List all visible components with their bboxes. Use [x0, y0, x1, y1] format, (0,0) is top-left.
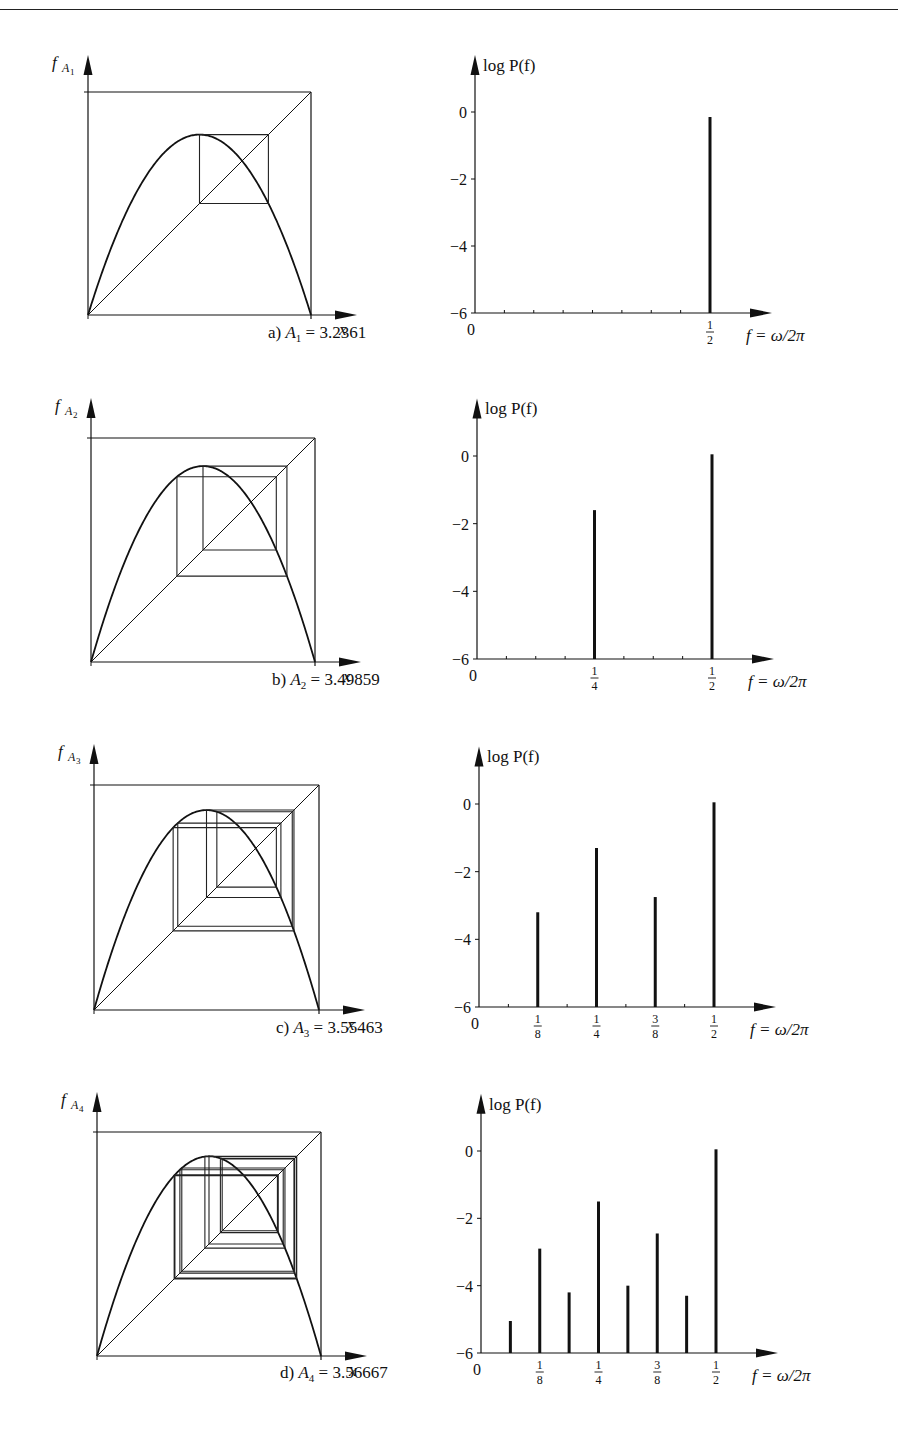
panel-caption-d: d) A4 = 3.56667 [280, 1363, 388, 1384]
panel-caption-a: a) A1 = 3.2361 [268, 323, 366, 344]
spectrum-x-label: f = ω/2π [748, 672, 807, 691]
spectrum-x-label: f = ω/2π [750, 1020, 809, 1039]
x-origin-label: 0 [471, 1015, 479, 1032]
fraction-numerator: 1 [596, 1358, 602, 1372]
panel-b: fA2x0−2−4−601412log P(f)f = ω/2π [55, 396, 807, 693]
axis-arrow-up-icon [471, 55, 480, 75]
spectrum-y-label: log P(f) [485, 399, 537, 418]
cobweb-plot-a: fA1x [52, 53, 357, 339]
panel-d: fA4x0−2−4−6018143812log P(f)f = ω/2π [61, 1090, 811, 1387]
fraction-numerator: 3 [654, 1358, 660, 1372]
fraction-denominator: 2 [713, 1373, 719, 1387]
fraction-denominator: 4 [592, 679, 598, 693]
fraction-denominator: 2 [709, 679, 715, 693]
axis-arrow-right-icon [345, 1352, 367, 1361]
fraction-denominator: 8 [654, 1373, 660, 1387]
fraction-numerator: 3 [652, 1012, 658, 1026]
y-tick-label: −4 [454, 931, 471, 948]
caption-prefix: d) [280, 1363, 298, 1382]
axis-arrow-up-icon [93, 1092, 102, 1112]
y-tick-label: −4 [450, 238, 467, 255]
fraction-numerator: 1 [535, 1012, 541, 1026]
fraction-denominator: 8 [652, 1027, 658, 1041]
caption-symbol: A [290, 670, 300, 689]
spectrum-x-label: f = ω/2π [746, 326, 805, 345]
caption-prefix: c) [276, 1018, 293, 1037]
map-y-label-sub: A [61, 61, 70, 75]
axis-arrow-up-icon [477, 1094, 486, 1114]
axis-arrow-right-icon [752, 655, 774, 664]
y-tick-label: −6 [452, 651, 469, 668]
y-tick-label: −2 [456, 1210, 473, 1227]
caption-value: = 3.2361 [301, 323, 366, 342]
caption-symbol: A [293, 1018, 303, 1037]
panel-caption-b: b) A2 = 3.49859 [272, 670, 380, 691]
y-tick-label: −6 [454, 999, 471, 1016]
spectrum-y-label: log P(f) [483, 56, 535, 75]
fraction-numerator: 1 [592, 664, 598, 678]
axis-arrow-up-icon [475, 746, 484, 766]
axis-arrow-up-icon [473, 398, 482, 418]
panel-a: fA1x0−2−4−6012log P(f)f = ω/2π [52, 53, 805, 347]
axis-arrow-right-icon [756, 1349, 778, 1358]
axis-arrow-up-icon [84, 55, 93, 75]
map-y-label: f [55, 396, 62, 415]
fraction-numerator: 1 [594, 1012, 600, 1026]
caption-symbol: A [298, 1363, 308, 1382]
fraction-numerator: 1 [537, 1358, 543, 1372]
fraction-denominator: 8 [537, 1373, 543, 1387]
map-y-label: f [52, 53, 59, 72]
map-y-label-subsub: 4 [79, 1104, 84, 1114]
map-y-label-subsub: 3 [76, 756, 81, 766]
axis-arrow-up-icon [90, 744, 99, 764]
y-tick-label: −6 [450, 305, 467, 322]
caption-value: = 3.55463 [309, 1018, 382, 1037]
y-tick-label: −6 [456, 1345, 473, 1362]
caption-value: = 3.56667 [314, 1363, 387, 1382]
fraction-numerator: 1 [707, 318, 713, 332]
spectrum-x-label: f = ω/2π [752, 1366, 811, 1385]
spectrum-y-label: log P(f) [487, 747, 539, 766]
map-y-label-sub: A [64, 404, 73, 418]
map-y-label-sub: A [67, 750, 76, 764]
axis-arrow-right-icon [750, 309, 772, 318]
cobweb-plot-d: fA4x [61, 1090, 367, 1380]
panel-c: fA3x0−2−4−6018143812log P(f)f = ω/2π [58, 742, 809, 1041]
caption-symbol: A [285, 323, 295, 342]
caption-value: = 3.49859 [306, 670, 379, 689]
spectrum-plot-a: 0−2−4−6012log P(f)f = ω/2π [450, 55, 805, 347]
fraction-denominator: 2 [707, 333, 713, 347]
fraction-numerator: 1 [713, 1358, 719, 1372]
panel-caption-c: c) A3 = 3.55463 [276, 1018, 383, 1039]
spectrum-y-label: log P(f) [489, 1095, 541, 1114]
fraction-numerator: 1 [711, 1012, 717, 1026]
spectrum-plot-c: 0−2−4−6018143812log P(f)f = ω/2π [454, 746, 809, 1041]
y-tick-label: 0 [465, 1143, 473, 1160]
x-origin-label: 0 [473, 1361, 481, 1378]
cobweb-plot-c: fA3x [58, 742, 365, 1034]
map-y-label-sub: A [70, 1098, 79, 1112]
caption-prefix: a) [268, 323, 285, 342]
x-origin-label: 0 [469, 667, 477, 684]
x-origin-label: 0 [467, 321, 475, 338]
map-y-label: f [58, 742, 65, 761]
spectrum-plot-d: 0−2−4−6018143812log P(f)f = ω/2π [456, 1094, 811, 1387]
y-tick-label: −4 [452, 583, 469, 600]
y-tick-label: 0 [461, 448, 469, 465]
bifurcation-figure: fA1x0−2−4−6012log P(f)f = ω/2πfA2x0−2−4−… [0, 0, 898, 1440]
fraction-denominator: 4 [594, 1027, 600, 1041]
map-y-label-subsub: 1 [70, 67, 75, 77]
y-tick-label: −2 [454, 864, 471, 881]
map-y-label-subsub: 2 [73, 410, 78, 420]
y-tick-label: −2 [452, 516, 469, 533]
fraction-denominator: 8 [535, 1027, 541, 1041]
axis-arrow-right-icon [339, 658, 361, 667]
axis-arrow-up-icon [87, 398, 96, 418]
fraction-denominator: 2 [711, 1027, 717, 1041]
fraction-denominator: 4 [596, 1373, 602, 1387]
caption-prefix: b) [272, 670, 290, 689]
y-tick-label: −4 [456, 1278, 473, 1295]
map-y-label: f [61, 1090, 68, 1109]
fraction-numerator: 1 [709, 664, 715, 678]
axis-arrow-right-icon [343, 1006, 365, 1015]
